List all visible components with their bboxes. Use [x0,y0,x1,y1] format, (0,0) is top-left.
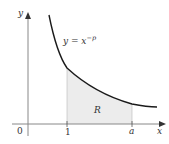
y-axis-label: y [17,8,24,18]
curve [49,15,157,107]
origin-label: 0 [17,126,23,136]
curve-label: y = x−p [62,34,97,46]
x-axis-label: x [157,126,162,136]
tick-label-a: a [129,126,134,136]
tick-label-1: 1 [65,127,71,137]
region-label: R [93,105,101,115]
y-axis-arrow-icon [25,12,31,19]
diagram-canvas: y x 0 1 a R y = x−p [0,0,169,144]
